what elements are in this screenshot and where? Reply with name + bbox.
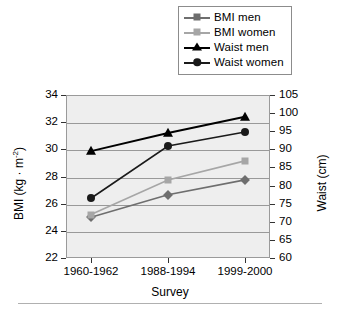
bottom-divider (18, 303, 322, 304)
series-lines (0, 0, 340, 313)
line-bmi-women (91, 161, 245, 215)
line-waist-women (91, 132, 245, 198)
chart-figure: BMI men BMI women Waist men Waist women (0, 0, 340, 313)
line-bmi-men (91, 180, 245, 217)
